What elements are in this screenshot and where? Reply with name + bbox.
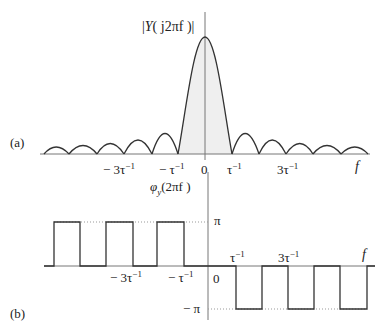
- a-tick-neg1: − τ−1: [159, 162, 184, 176]
- b-tick-zero: 0: [213, 272, 220, 285]
- panel-b-label: (b): [10, 307, 25, 320]
- a-tick-neg3: − 3τ−1: [103, 162, 135, 176]
- phase-title: φy(2πf ): [150, 180, 191, 197]
- tick-exp: −1: [175, 161, 185, 171]
- title-Y: Y: [145, 19, 153, 34]
- a-tick-pos1: τ−1: [227, 162, 242, 176]
- tick-text: − τ: [159, 162, 175, 177]
- tick-exp: −1: [132, 269, 142, 279]
- a-tick-zero: 0: [201, 163, 208, 176]
- tick-exp: −1: [125, 161, 135, 171]
- b-tick-pos3: 3τ−1: [278, 250, 299, 264]
- b-tick-pos1: τ−1: [230, 250, 245, 264]
- pi-label: π: [214, 214, 221, 227]
- tick-exp: −1: [289, 161, 299, 171]
- tick-text: − τ: [168, 270, 184, 285]
- panel-a-label: (a): [10, 136, 24, 149]
- a-tick-pos3: 3τ−1: [277, 162, 298, 176]
- neg-pi-label: − π: [183, 302, 200, 315]
- b-tick-neg1: − τ−1: [168, 270, 193, 284]
- a-f-label: f: [355, 160, 359, 174]
- tick-text: 3τ: [278, 250, 290, 265]
- magnitude-title: |Y( j2πf )|: [142, 20, 194, 34]
- tick-exp: −1: [235, 249, 245, 259]
- title-arg: ( j2πf ): [153, 19, 192, 34]
- title-arg: (2πf ): [161, 179, 190, 194]
- tick-exp: −1: [232, 161, 242, 171]
- tick-exp: −1: [184, 269, 194, 279]
- tick-exp: −1: [290, 249, 300, 259]
- b-tick-neg3: − 3τ−1: [110, 270, 142, 284]
- phase-curve: [44, 222, 375, 309]
- abs-bar-right: |: [192, 19, 195, 34]
- tick-text: − 3τ: [103, 162, 125, 177]
- b-f-label: f: [362, 248, 366, 262]
- tick-text: 3τ: [277, 162, 289, 177]
- tick-text: − 3τ: [110, 270, 132, 285]
